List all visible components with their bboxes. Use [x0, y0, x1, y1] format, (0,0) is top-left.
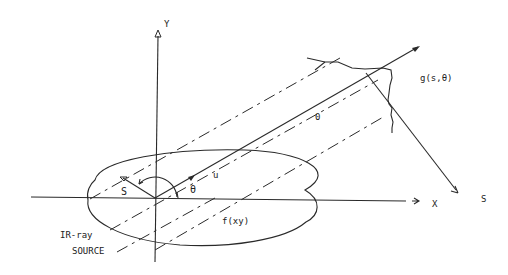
- source-label-line2: SOURCE: [72, 246, 105, 256]
- y-axis: [155, 36, 158, 262]
- source-label-line1: IR-ray: [60, 230, 93, 240]
- s-axis-label: S: [481, 194, 486, 204]
- projection-diagram: Y X f(xy) S 0 g(s,θ) S θ u IR-ray SOURCE: [0, 0, 508, 275]
- theta-arc-tick: [177, 192, 178, 198]
- projection-tick: [315, 62, 325, 70]
- s-axis: [366, 73, 456, 190]
- object-label: f(xy): [222, 216, 249, 226]
- x-axis-label: X: [432, 199, 438, 209]
- y-axis-arrow-icon: [155, 30, 161, 37]
- s-vector-label: S: [121, 186, 127, 197]
- theta-label: θ: [190, 184, 196, 195]
- x-axis-arrow-icon: [412, 198, 419, 204]
- ray-3: [155, 116, 385, 250]
- u-vector-arrow-icon: [188, 175, 195, 181]
- s-axis-arrow-icon: [451, 186, 458, 193]
- ray-2: [110, 80, 378, 230]
- u-vector-label: u: [213, 170, 218, 180]
- y-axis-label: Y: [164, 19, 170, 29]
- projection-origin-label: 0: [315, 112, 320, 122]
- theta-arc-large: [139, 177, 177, 197]
- central-ray-arrow-icon: [412, 46, 420, 52]
- s-vector: [123, 178, 155, 198]
- projection-label: g(s,θ): [420, 73, 453, 83]
